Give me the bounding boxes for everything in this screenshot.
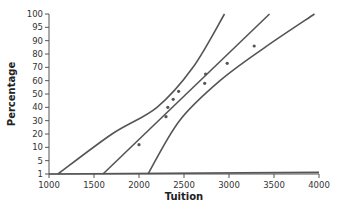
x-tick-label: 3500 (263, 180, 285, 190)
x-tick-label: 4000 (308, 180, 330, 190)
y-tick-label: 5 (38, 156, 43, 166)
probability-plot: 1510203040506070809095100 10001500200025… (0, 0, 339, 216)
data-point (226, 62, 229, 65)
confidence-curves (49, 14, 319, 174)
y-axis-title: Percentage (6, 62, 17, 127)
y-tick-label: 90 (32, 36, 43, 46)
data-point (164, 115, 167, 118)
data-point (137, 143, 140, 146)
data-point (166, 106, 169, 109)
y-tick-label: 30 (32, 116, 43, 126)
y-tick-label: 80 (32, 49, 43, 59)
data-point (177, 90, 180, 93)
y-tick-label: 100 (27, 9, 43, 19)
y-tick-label: 40 (32, 102, 43, 112)
y-tick-label: 1 (38, 169, 43, 179)
x-tick-label: 2500 (173, 180, 195, 190)
y-tick-label: 10 (32, 142, 43, 152)
upper-confidence-band-line (58, 14, 225, 174)
lower-confidence-band-line (148, 14, 315, 174)
data-point (204, 72, 207, 75)
data-points (137, 44, 255, 146)
y-tick-label: 60 (32, 76, 43, 86)
x-tick-labels: 1000150020002500300035004000 (38, 180, 330, 190)
y-tick-label: 70 (32, 62, 43, 72)
y-tick-label: 20 (32, 129, 43, 139)
fitted-line-line (103, 14, 270, 174)
x-tick-label: 3000 (218, 180, 240, 190)
data-point (203, 82, 206, 85)
x-tick-label: 1500 (83, 180, 105, 190)
y-tick-label: 95 (32, 22, 43, 32)
x-axis-title: Tuition (165, 191, 203, 202)
x-tick-label: 1000 (38, 180, 60, 190)
y-tick-labels: 1510203040506070809095100 (27, 9, 43, 179)
data-point (172, 98, 175, 101)
data-point (253, 44, 256, 47)
y-tick-label: 50 (32, 89, 43, 99)
x-tick-label: 2000 (128, 180, 150, 190)
